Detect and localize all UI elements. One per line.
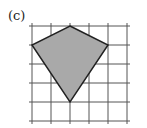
kite-on-grid-diagram (0, 0, 147, 128)
